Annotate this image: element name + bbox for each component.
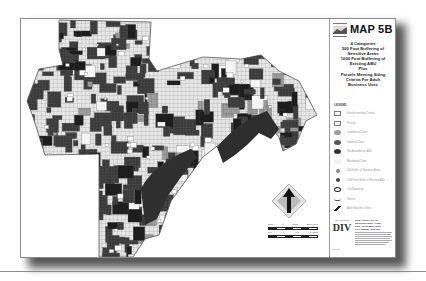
parcel-block (242, 251, 247, 258)
parcel-block (221, 28, 231, 35)
parcel-block (240, 190, 245, 197)
legend-title: LEGEND (334, 103, 347, 107)
parcel-block (262, 243, 278, 257)
qualifying-parcel (279, 43, 285, 48)
legend-label: Adult Business Store (347, 207, 371, 210)
parcel-block (49, 194, 64, 207)
parcel-block (33, 49, 47, 56)
qualifying-parcel (172, 190, 177, 194)
qualifying-parcel (240, 37, 247, 42)
parcel-block (216, 157, 221, 167)
parcel-block (211, 26, 225, 41)
parcel-block (147, 46, 160, 55)
parcel-block (30, 72, 34, 83)
parcel-block (89, 205, 96, 218)
parcel-block (224, 93, 230, 98)
qualifying-parcel (157, 219, 161, 222)
parcel-block (83, 202, 94, 212)
legend-swatch-icon (334, 206, 341, 211)
parcel-block (241, 222, 258, 231)
parcel-block (95, 134, 101, 146)
parcel-block (318, 128, 328, 138)
parcel-block (296, 172, 302, 183)
qualifying-parcel (297, 241, 303, 246)
parcel-block (67, 54, 72, 60)
parcel-block (228, 47, 239, 62)
qualifying-parcel (235, 183, 240, 187)
parcel-block (283, 120, 299, 128)
parcel-block (315, 20, 328, 36)
parcel-block (42, 72, 53, 76)
parcel-block (233, 159, 241, 165)
parcel-block (318, 187, 327, 197)
parcel-block (232, 205, 250, 217)
parcel-block (294, 147, 302, 158)
parcel-block (185, 230, 195, 242)
parcel-block (170, 242, 181, 253)
parcel-block (120, 25, 128, 38)
qualifying-parcel (204, 64, 208, 68)
qualifying-parcel (269, 106, 272, 108)
qualifying-parcel (115, 245, 122, 250)
qualifying-parcel (84, 73, 88, 76)
parcel-block (63, 198, 67, 205)
parcel-block (220, 238, 227, 252)
city-logo-icon (333, 23, 347, 37)
parcel-block (209, 77, 214, 83)
map-area[interactable] (21, 19, 328, 257)
qualifying-parcel (228, 168, 230, 170)
parcel-block (31, 147, 36, 157)
parcel-block (172, 247, 180, 255)
legend-item: 500 Buffer of Sensitive Areas (334, 166, 394, 176)
parcel-block (57, 192, 73, 203)
parcel-block (61, 191, 78, 198)
parcel-block (196, 203, 213, 210)
parcel-block (48, 128, 53, 136)
parcel-block (273, 26, 284, 39)
parcel-block (154, 247, 164, 258)
parcel-block (100, 64, 104, 70)
parcel-block (77, 244, 87, 254)
parcel-block (82, 133, 91, 144)
legend-swatch-icon (336, 178, 340, 182)
parcel-block (313, 151, 328, 161)
parcel-block (83, 192, 88, 201)
parcel-block (228, 187, 233, 195)
parcel-block (47, 48, 55, 52)
parcel-block (169, 31, 180, 36)
parcel-block (301, 27, 319, 33)
parcel-block (198, 201, 214, 217)
legend-item: Streets (334, 195, 394, 205)
qualifying-parcel (118, 194, 124, 198)
parcel-block (23, 200, 32, 207)
parcel-block (39, 21, 55, 26)
parcel-block (174, 120, 187, 135)
scale-label: 0.5 (268, 231, 271, 234)
qualifying-parcel (223, 48, 229, 53)
parcel-block (74, 115, 83, 125)
parcel-block (254, 148, 265, 163)
parcel-block (169, 26, 183, 38)
legend-item: Residential Zone (334, 157, 394, 167)
parcel-block (247, 253, 262, 257)
parcel-block (79, 155, 89, 168)
parcel-block (89, 196, 107, 210)
parcel-block (102, 253, 119, 257)
city-parcel-map[interactable] (21, 19, 328, 257)
parcel-block (304, 40, 309, 46)
qualifying-parcel (131, 143, 137, 148)
legend-swatch-icon (334, 149, 341, 154)
parcel-block (227, 169, 236, 185)
parcel-block (123, 189, 135, 203)
qualifying-parcel (276, 169, 283, 174)
parcel-block (113, 196, 118, 204)
legend-label: 1000 Foot Buffer of Existing ABU (347, 179, 385, 182)
parcel-block (201, 124, 213, 139)
legend-swatch-icon (334, 197, 341, 201)
parcel-block (311, 209, 318, 217)
parcel-block (163, 49, 178, 62)
qualifying-parcel (190, 143, 194, 147)
parcel-block (266, 151, 278, 161)
parcel-block (262, 138, 273, 148)
parcel-block (48, 92, 61, 108)
